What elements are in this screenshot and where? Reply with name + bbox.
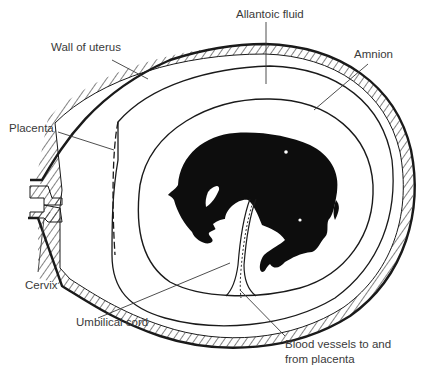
label-wall-of-uterus: Wall of uterus <box>51 40 121 54</box>
label-umbilical-cord: Umbilical cord <box>76 315 148 329</box>
label-allantoic-fluid: Allantoic fluid <box>236 7 304 21</box>
label-placenta: Placenta <box>9 121 54 135</box>
label-blood-vessels-line2: from placenta <box>285 352 355 366</box>
label-cervix: Cervix <box>25 278 58 292</box>
label-amnion: Amnion <box>354 47 393 61</box>
label-blood-vessels-line1: Blood vessels to and <box>285 337 391 351</box>
